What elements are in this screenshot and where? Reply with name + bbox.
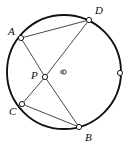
geometry-figure: o A D P C B <box>0 0 131 147</box>
segment-ad <box>21 20 89 38</box>
segment-pb <box>45 77 79 127</box>
segment-cp <box>22 77 45 104</box>
vertex-marker-a <box>18 35 23 40</box>
vertex-label-b: B <box>85 132 92 143</box>
vertex-marker-c <box>19 101 24 106</box>
geometry-canvas <box>0 0 131 147</box>
vertex-marker-e <box>117 70 122 75</box>
segment-cb <box>22 104 79 127</box>
vertex-marker-p <box>42 74 47 79</box>
vertex-marker-d <box>86 17 91 22</box>
vertex-label-a: A <box>8 26 15 37</box>
vertex-label-c: C <box>9 106 16 117</box>
vertex-label-p: P <box>31 70 38 81</box>
vertex-label-d: D <box>95 5 103 16</box>
vertex-marker-b <box>76 124 81 129</box>
center-label: o <box>60 68 64 76</box>
segment-pd <box>45 20 89 77</box>
